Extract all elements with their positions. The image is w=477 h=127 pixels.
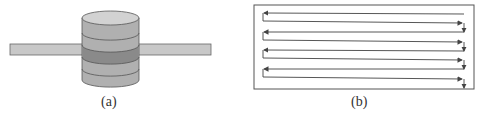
serpentine-path — [263, 13, 464, 88]
cylinder-top — [82, 11, 139, 25]
cylinder-illustration — [0, 0, 240, 127]
cylinder — [82, 11, 139, 87]
caption-b: (b) — [351, 94, 367, 110]
panel-b-scan-path-diagram: (b) — [240, 0, 477, 127]
scan-frame — [254, 5, 474, 89]
caption-a: (a) — [101, 94, 117, 110]
panel-a-cylinder-diagram: (a) — [0, 0, 240, 127]
